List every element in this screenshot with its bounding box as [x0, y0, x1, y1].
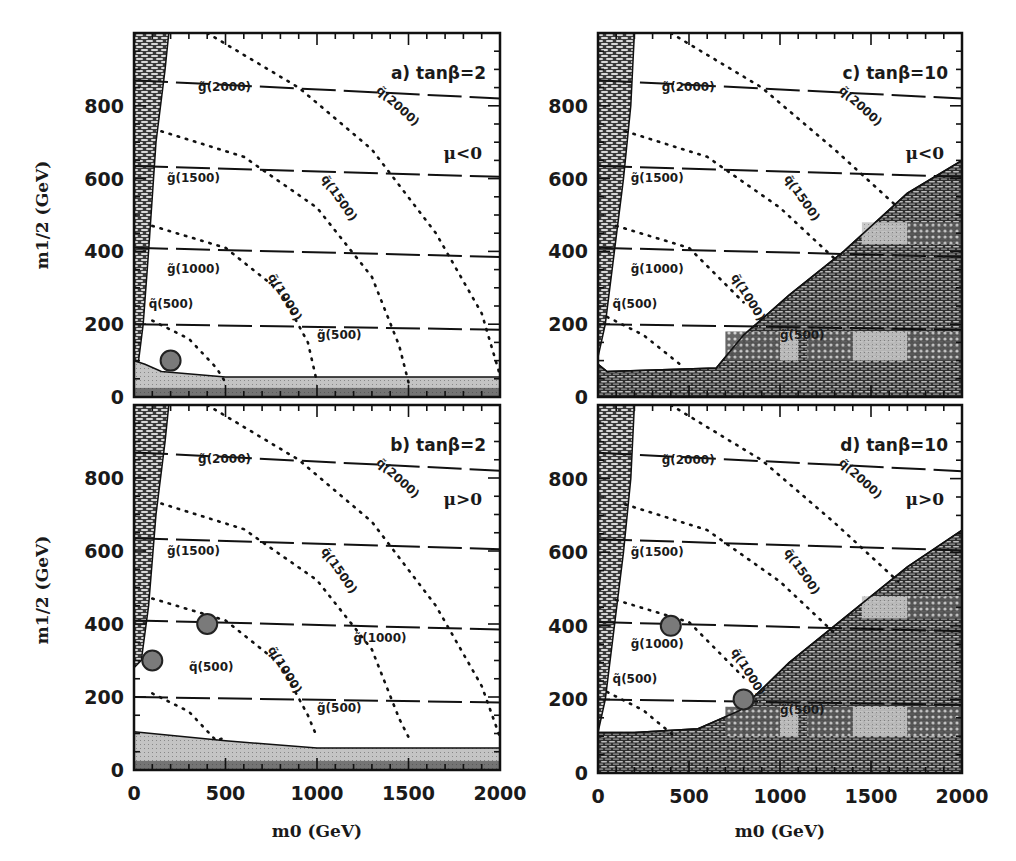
panel-label: d) tanβ=10 — [840, 435, 948, 455]
gluino-contour-label: g̃(1000) — [354, 631, 407, 645]
gluino-contour-label: g̃(1000) — [631, 262, 684, 276]
benchmark-point — [661, 616, 681, 636]
y-tick-label: 400 — [548, 615, 588, 637]
y-axis-title-bottom: m1/2 (GeV) — [32, 536, 52, 644]
panel-label: a) tanβ=2 — [391, 63, 486, 83]
x-tick-label: 1000 — [754, 785, 807, 807]
gluino-contour-label: g̃(1500) — [167, 171, 220, 185]
y-tick-label: 200 — [84, 313, 124, 335]
benchmark-point — [161, 351, 181, 371]
x-tick-label: 2000 — [936, 785, 989, 807]
gluino-contour-label: g̃(2000) — [662, 80, 715, 94]
gluino-contour-label: g̃(500) — [317, 328, 362, 342]
x-tick-label: 1000 — [291, 782, 344, 804]
gluino-contour-label: g̃(2000) — [198, 80, 251, 94]
gluino-contour-label: g̃(500) — [317, 701, 362, 715]
y-tick-label: 0 — [111, 759, 124, 781]
gluino-contour-label: g̃(1500) — [167, 544, 220, 558]
y-tick-label: 600 — [548, 168, 588, 190]
gluino-contour-label: g̃(1500) — [631, 545, 684, 559]
y-tick-label: 600 — [84, 168, 124, 190]
x-axis-title-right: m0 (GeV) — [735, 821, 825, 841]
mu-sign-label: μ<0 — [443, 143, 482, 163]
y-tick-label: 800 — [548, 95, 588, 117]
y-tick-label: 600 — [548, 541, 588, 563]
x-tick-label: 1500 — [845, 785, 898, 807]
gluino-contour-label: g̃(2000) — [198, 452, 251, 466]
squark-contour-label: q̃(500) — [189, 660, 234, 674]
gluino-contour-label: g̃(1000) — [167, 262, 220, 276]
x-axis-title-left: m0 (GeV) — [272, 821, 362, 841]
benchmark-point — [197, 614, 217, 634]
panel-c: g̃(500)g̃(1000)g̃(1500)g̃(2000)q̃(500)q̃… — [548, 33, 962, 408]
panel-b: g̃(500)g̃(1000)g̃(1500)g̃(2000)q̃(500)q̃… — [84, 405, 526, 804]
x-tick-label: 500 — [669, 785, 709, 807]
y-tick-label: 400 — [84, 613, 124, 635]
panel-a: g̃(500)g̃(1000)g̃(1500)g̃(2000)q̃(500)q̃… — [84, 33, 500, 408]
figure: g̃(500)g̃(1000)g̃(1500)g̃(2000)q̃(500)q̃… — [0, 0, 1016, 861]
x-tick-label: 2000 — [474, 782, 527, 804]
benchmark-point — [142, 651, 162, 671]
y-tick-label: 800 — [84, 467, 124, 489]
gluino-contour-label: g̃(1000) — [631, 637, 684, 651]
squark-contour-label: q̃(500) — [613, 672, 658, 686]
y-tick-label: 0 — [575, 762, 588, 784]
y-tick-label: 400 — [548, 240, 588, 262]
y-tick-label: 0 — [111, 386, 124, 408]
x-tick-label: 0 — [591, 785, 604, 807]
y-tick-label: 800 — [548, 468, 588, 490]
squark-contour-label: q̃(500) — [149, 297, 194, 311]
plot-area — [134, 405, 500, 770]
gluino-contour-label: g̃(2000) — [662, 453, 715, 467]
panel-label: b) tanβ=2 — [390, 435, 486, 455]
mu-sign-label: μ>0 — [905, 489, 944, 509]
x-tick-label: 0 — [127, 782, 140, 804]
y-tick-label: 600 — [84, 540, 124, 562]
y-tick-label: 800 — [84, 95, 124, 117]
y-axis-title-top: m1/2 (GeV) — [32, 161, 52, 269]
y-tick-label: 400 — [84, 240, 124, 262]
gluino-contour-label: g̃(500) — [780, 703, 825, 717]
panel-label: c) tanβ=10 — [842, 63, 948, 83]
squark-contour-label: q̃(500) — [613, 297, 658, 311]
gluino-contour-label: g̃(1500) — [631, 171, 684, 185]
mu-sign-label: μ<0 — [905, 143, 944, 163]
y-tick-label: 200 — [548, 313, 588, 335]
y-tick-label: 200 — [548, 688, 588, 710]
panel-d: g̃(500)g̃(1000)g̃(1500)g̃(2000)q̃(500)q̃… — [548, 405, 988, 807]
mu-sign-label: μ>0 — [443, 489, 482, 509]
y-tick-label: 200 — [84, 686, 124, 708]
x-tick-label: 500 — [206, 782, 246, 804]
y-tick-label: 0 — [575, 386, 588, 408]
plot-area — [134, 33, 500, 397]
gluino-contour-label: g̃(500) — [780, 328, 825, 342]
x-tick-label: 1500 — [382, 782, 435, 804]
benchmark-point — [734, 689, 754, 709]
